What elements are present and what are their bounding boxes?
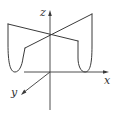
z-axis-arrowhead <box>48 10 52 16</box>
y-axis-arrowhead <box>21 90 26 95</box>
left-u-curve <box>8 24 25 72</box>
z-axis-label: z <box>39 6 46 19</box>
right-u-curve <box>78 14 92 72</box>
x-axis-label: x <box>104 74 111 87</box>
y-axis <box>23 72 50 93</box>
y-axis-label: y <box>10 86 18 99</box>
diagram-canvas: z x y <box>0 0 119 113</box>
axes <box>21 10 109 110</box>
